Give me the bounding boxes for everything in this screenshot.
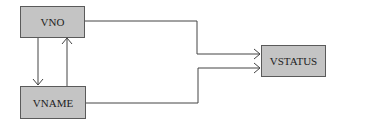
edge-vno-to-vstatus <box>84 21 260 59</box>
node-label: VNAME <box>33 97 73 109</box>
dependency-diagram: VNO VNAME VSTATUS <box>0 0 375 130</box>
node-vname: VNAME <box>20 86 86 119</box>
edge-vname-to-vno <box>62 38 72 86</box>
node-vstatus: VSTATUS <box>261 45 326 77</box>
edge-vname-to-vstatus <box>85 63 260 103</box>
node-vno: VNO <box>20 6 85 38</box>
edge-vno-to-vname <box>33 37 43 85</box>
node-label: VNO <box>41 16 65 28</box>
node-label: VSTATUS <box>270 55 317 67</box>
